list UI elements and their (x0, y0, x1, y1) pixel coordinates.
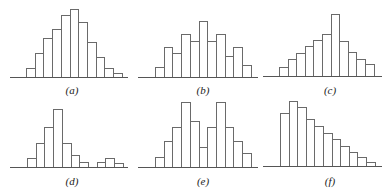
x-axis-baseline (10, 77, 128, 78)
x-axis-baseline (138, 167, 258, 168)
panel-label-e: (e) (197, 175, 209, 187)
histogram-bar (366, 162, 376, 166)
panel-label-d: (d) (66, 175, 79, 187)
histogram-bar (365, 64, 375, 76)
panel-label-c: (c) (324, 84, 336, 96)
x-axis-baseline (138, 77, 258, 78)
histogram-bar (79, 162, 89, 167)
histogram-bar (242, 65, 252, 77)
histogram-bar (113, 73, 123, 77)
histogram-bar (114, 163, 124, 167)
panel-label-a: (a) (66, 84, 79, 96)
x-axis-baseline (263, 76, 382, 77)
histogram-bar (242, 153, 252, 167)
panel-label-b: (b) (197, 84, 210, 96)
panel-label-f: (f) (325, 175, 335, 187)
x-axis-baseline (10, 167, 128, 168)
x-axis-baseline (263, 166, 382, 167)
histogram-grid: (a) (b) (c) (d) (e) (f) (0, 0, 386, 195)
